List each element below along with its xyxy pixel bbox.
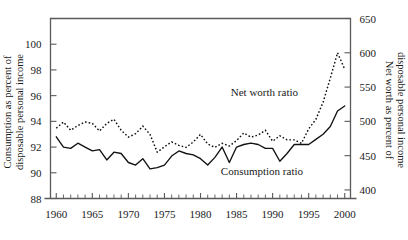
y-tick-label-left: 96: [31, 90, 43, 102]
y-axis-right-title-line2: disposable personal income: [396, 52, 407, 168]
x-axis-tick-labels: 196019651970197519801985199019952000: [45, 208, 356, 220]
y-tick-label-right: 650: [360, 13, 377, 25]
y-axis-left-title-line1: Consumption as percent of: [2, 55, 13, 168]
x-tick-label: 1975: [153, 208, 176, 220]
y-axis-left-title-line2: disposable personal income: [14, 54, 25, 170]
y-tick-label-left: 88: [31, 193, 43, 205]
y-tick-label-left: 98: [31, 64, 43, 76]
y-tick-label-right: 600: [360, 47, 377, 59]
y-axis-right-title-line1: Net worth as percent of: [384, 61, 395, 160]
y-tick-label-right: 550: [360, 81, 377, 93]
x-tick-label: 1980: [190, 208, 213, 220]
chart-container: 196019651970197519801985199019952000 889…: [0, 0, 408, 240]
chart-background: [0, 0, 408, 240]
y-tick-label-left: 92: [31, 141, 42, 153]
x-tick-label: 2000: [334, 208, 357, 220]
x-tick-label: 1960: [45, 208, 68, 220]
y-tick-label-right: 450: [360, 150, 377, 162]
y-tick-label-left: 100: [25, 38, 42, 50]
y-tick-label-right: 500: [360, 115, 377, 127]
x-tick-label: 1995: [298, 208, 321, 220]
y-tick-label-left: 94: [31, 115, 43, 127]
annotation-consumption-ratio: Consumption ratio: [221, 165, 304, 177]
x-tick-label: 1965: [81, 208, 104, 220]
dual-axis-line-chart: 196019651970197519801985199019952000 889…: [0, 0, 408, 240]
x-tick-label: 1990: [262, 208, 285, 220]
annotation-net-worth-ratio: Net worth ratio: [231, 86, 299, 98]
y-tick-label-left: 90: [31, 167, 43, 179]
x-tick-label: 1985: [226, 208, 249, 220]
x-tick-label: 1970: [117, 208, 140, 220]
y-tick-label-right: 400: [360, 184, 377, 196]
